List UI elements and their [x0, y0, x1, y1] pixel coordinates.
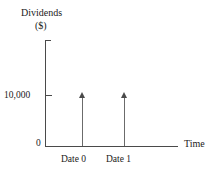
y-axis-tick-label-10000: 10,000 [4, 90, 30, 100]
x-axis-title: Time [184, 139, 205, 149]
y-axis-units-label: ($) [35, 20, 47, 31]
x-axis-tick-label-date-1: Date 1 [106, 154, 131, 164]
dividends-timeline-chart: Dividends ($) 10,000 0 Date 0 Date 1 Tim… [0, 0, 214, 173]
y-axis-top-cap [45, 40, 51, 41]
cash-flow-arrow-date-0 [82, 97, 83, 146]
y-axis-line [45, 40, 46, 147]
x-axis-line [45, 146, 178, 147]
y-axis-title: Dividends [21, 7, 62, 18]
y-axis-tick-10000 [45, 95, 52, 96]
origin-label: 0 [36, 138, 41, 148]
cash-flow-arrow-date-1 [124, 97, 125, 146]
x-axis-tick-label-date-0: Date 0 [61, 154, 86, 164]
